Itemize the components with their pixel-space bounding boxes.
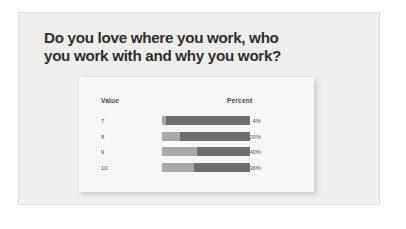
table-row: 940% [79, 146, 314, 160]
row-bar-fill [162, 163, 194, 172]
row-percent-label: 40% [227, 149, 261, 155]
row-bar-fill [162, 147, 197, 156]
row-value-label: 10 [101, 165, 107, 171]
row-value-label: 7 [101, 118, 104, 124]
row-value-label: 8 [101, 134, 104, 140]
row-percent-label: 20% [227, 134, 261, 140]
column-header-percent: Percent [227, 97, 252, 104]
row-percent-label: 4% [227, 118, 261, 124]
row-bar-fill [162, 116, 166, 125]
table-row: 74% [79, 115, 314, 129]
chart-card: Value Percent 74%820%940%1036% [79, 77, 314, 192]
slide-frame: Do you love where you work, who you work… [18, 12, 380, 205]
table-row: 1036% [79, 162, 314, 176]
page-title: Do you love where you work, who you work… [44, 29, 344, 64]
row-bar-fill [162, 132, 180, 141]
column-header-value: Value [101, 97, 119, 104]
row-value-label: 9 [101, 149, 104, 155]
slide-canvas: Do you love where you work, who you work… [22, 16, 376, 201]
row-percent-label: 36% [227, 165, 261, 171]
table-row: 820% [79, 131, 314, 145]
